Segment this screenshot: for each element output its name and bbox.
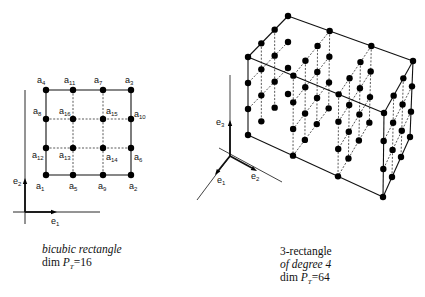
node-label-a10: a10: [134, 109, 146, 120]
box-edge: [383, 137, 410, 197]
node-dot: [325, 105, 331, 111]
e1-arrow-icon: [51, 210, 57, 214]
node-dot: [410, 58, 416, 64]
node-dot: [390, 92, 396, 98]
node-dot: [326, 28, 332, 34]
node-dot: [380, 194, 386, 200]
node-dot: [346, 102, 352, 108]
node-dot: [389, 147, 395, 153]
left-caption-title: bicubic rectangle: [42, 243, 122, 255]
grid-line-dashed: [248, 68, 288, 109]
node-a15: [100, 116, 106, 122]
e1-label: e1: [217, 175, 226, 186]
grid-line-dashed: [293, 83, 329, 129]
node-label-a4: a4: [37, 75, 46, 86]
node-dot: [271, 52, 277, 58]
e3-arrow-icon: [228, 120, 232, 126]
node-dot: [285, 39, 291, 45]
node-dot: [407, 134, 413, 140]
node-label-a5: a5: [69, 181, 78, 192]
node-dot: [245, 80, 251, 86]
node-dot: [400, 75, 406, 81]
grid-line-dashed: [392, 96, 394, 177]
node-dot: [271, 26, 277, 32]
grid-line-dashed: [293, 31, 329, 76]
e2-basis-vector: [230, 156, 252, 168]
node-dot: [302, 110, 308, 116]
right-caption-degree: of degree 4: [280, 258, 332, 271]
node-a6: [128, 145, 134, 151]
node-dot: [326, 54, 332, 60]
grid-line-dashed: [305, 61, 306, 140]
node-dot: [302, 84, 308, 90]
grid-line-dashed: [339, 46, 372, 94]
node-dot: [335, 146, 341, 152]
node-a16: [70, 116, 76, 122]
node-label-a3: a3: [125, 75, 134, 86]
node-dot: [314, 95, 320, 101]
node-dot: [356, 111, 362, 117]
node-label-a15: a15: [106, 106, 118, 117]
node-a13: [70, 145, 76, 151]
node-dot: [245, 106, 251, 112]
right-caption: 3-rectangle of degree 4 dim PT=64: [280, 245, 332, 289]
grid-line-dashed: [384, 86, 412, 141]
node-dot: [399, 101, 405, 107]
right-caption-title: 3-rectangle: [280, 245, 332, 258]
grid-line-dashed: [293, 108, 329, 155]
grid-line-dashed: [293, 57, 329, 103]
node-dot: [368, 43, 374, 49]
node-label-a16: a16: [59, 106, 71, 117]
node-dot: [290, 72, 296, 78]
box-edge: [248, 57, 384, 113]
node-label-a12: a12: [32, 150, 44, 161]
node-dot: [380, 166, 386, 172]
node-dot: [314, 121, 320, 127]
grid-line-dashed: [248, 42, 288, 83]
node-dot: [389, 174, 395, 180]
node-dot: [346, 129, 352, 135]
node-dot: [398, 154, 404, 160]
left-caption: bicubic rectangle dim PT=16: [42, 243, 122, 274]
three-rectangle-figure: e3e1e2: [197, 13, 416, 200]
node-label-a13: a13: [59, 150, 71, 161]
node-dot: [326, 79, 332, 85]
node-dot: [345, 155, 351, 161]
node-dot: [285, 65, 291, 71]
node-dot: [381, 110, 387, 116]
box-edge: [410, 61, 413, 137]
node-dot: [357, 59, 363, 65]
node-dot: [302, 58, 308, 64]
node-dot: [258, 66, 264, 72]
node-dot: [290, 152, 296, 158]
node-dot: [245, 54, 251, 60]
bicubic-rectangle-figure: e2e1a4a11a7a3a8a16a15a10a12a13a14a6a1a5a…: [13, 75, 146, 227]
grid-line-dashed: [401, 78, 403, 157]
node-label-a2: a2: [129, 181, 138, 192]
node-label-a14: a14: [106, 152, 118, 163]
right-caption-dim: dim PT=64: [280, 271, 332, 289]
node-a9: [100, 172, 106, 178]
node-dot: [335, 118, 341, 124]
node-a14: [100, 145, 106, 151]
node-dot: [366, 119, 372, 125]
node-dot: [346, 75, 352, 81]
grid-line-dashed: [338, 94, 339, 176]
box-edge: [248, 16, 288, 57]
node-dot: [285, 13, 291, 19]
left-caption-dim: dim PT=16: [42, 256, 122, 274]
node-label-a11: a11: [64, 75, 76, 86]
grid-line-dashed: [359, 62, 361, 140]
node-dot: [258, 40, 264, 46]
e2-label: e2: [251, 171, 260, 182]
node-dot: [245, 132, 251, 138]
grid-line-dashed: [329, 31, 330, 108]
node-dot: [380, 138, 386, 144]
e1-basis-vector: [218, 156, 230, 171]
node-a4: [43, 87, 49, 93]
box-edge: [383, 113, 384, 197]
node-a1: [43, 172, 49, 178]
node-dot: [335, 91, 341, 97]
node-dot: [367, 94, 373, 100]
node-dot: [399, 128, 405, 134]
